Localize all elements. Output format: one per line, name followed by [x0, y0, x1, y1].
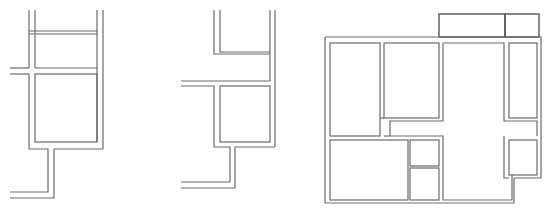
plan-b-room1-inner [220, 10, 270, 52]
plan-c-room-service-1 [410, 140, 439, 166]
plan-c [325, 14, 541, 203]
plan-c-room-top-mid-left [384, 43, 439, 118]
plan-c-room-bottom-right-outer [504, 136, 509, 178]
plan-c-room-top-right [509, 43, 537, 118]
plan-c-room-service-2 [410, 168, 439, 200]
plan-a-lower-outer-right [10, 149, 103, 198]
plan-c-room-bottom-left [330, 140, 408, 200]
plan-c-room-top-left [330, 43, 380, 136]
plan-b-room2 [220, 86, 270, 142]
plan-b-room1-outer [214, 10, 270, 54]
plan-c-hall-right [443, 43, 537, 136]
plan-b [181, 10, 275, 188]
floor-plans-figure [0, 0, 550, 213]
plan-a-lower-outer-left [10, 74, 48, 192]
plan-c-corridor-left-wall [390, 43, 443, 136]
plan-c-annex-right [505, 14, 539, 37]
plan-c-room-bottom-right [509, 140, 537, 175]
plan-b-lower-outer-left [181, 86, 230, 182]
plan-a [10, 10, 103, 198]
plan-c-annex-left [439, 14, 505, 37]
plan-a-room2 [35, 74, 97, 142]
plan-c-hall-bottom [439, 136, 512, 200]
